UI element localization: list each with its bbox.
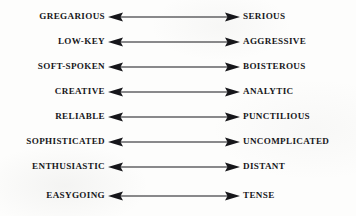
trait-label-right: BOISTEROUS — [243, 62, 356, 71]
trait-label-left: GREGARIOUS — [0, 12, 105, 21]
double-arrow-icon — [105, 136, 243, 148]
double-arrow-icon — [105, 61, 243, 73]
trait-continuum-diagram: GREGARIOUS SERIOUS LOW-KEY AGGRESSIVE SO… — [0, 0, 356, 216]
trait-label-right: UNCOMPLICATED — [243, 137, 356, 146]
trait-pair-row: RELIABLE PUNCTILIOUS — [0, 106, 356, 128]
double-arrow-icon — [105, 111, 243, 123]
double-arrow-icon — [105, 190, 243, 202]
trait-label-left: ENTHUSIASTIC — [0, 162, 105, 171]
trait-label-left: SOPHISTICATED — [0, 137, 105, 146]
trait-pair-row: LOW-KEY AGGRESSIVE — [0, 31, 356, 53]
trait-label-right: SERIOUS — [243, 12, 356, 21]
trait-pair-row: SOPHISTICATED UNCOMPLICATED — [0, 131, 356, 153]
trait-pair-row: SOFT-SPOKEN BOISTEROUS — [0, 56, 356, 78]
trait-pair-row: ENTHUSIASTIC DISTANT — [0, 156, 356, 178]
trait-pair-row: EASYGOING TENSE — [0, 185, 356, 207]
trait-label-right: DISTANT — [243, 162, 356, 171]
trait-label-left: EASYGOING — [0, 191, 105, 200]
double-arrow-icon — [105, 86, 243, 98]
trait-label-right: PUNCTILIOUS — [243, 112, 356, 121]
trait-label-left: CREATIVE — [0, 87, 105, 96]
trait-pair-row: CREATIVE ANALYTIC — [0, 81, 356, 103]
trait-label-left: SOFT-SPOKEN — [0, 62, 105, 71]
double-arrow-icon — [105, 161, 243, 173]
trait-label-left: RELIABLE — [0, 112, 105, 121]
trait-label-right: ANALYTIC — [243, 87, 356, 96]
trait-label-left: LOW-KEY — [0, 37, 105, 46]
trait-label-right: TENSE — [243, 191, 356, 200]
double-arrow-icon — [105, 36, 243, 48]
trait-pair-row: GREGARIOUS SERIOUS — [0, 6, 356, 28]
double-arrow-icon — [105, 11, 243, 23]
trait-label-right: AGGRESSIVE — [243, 37, 356, 46]
